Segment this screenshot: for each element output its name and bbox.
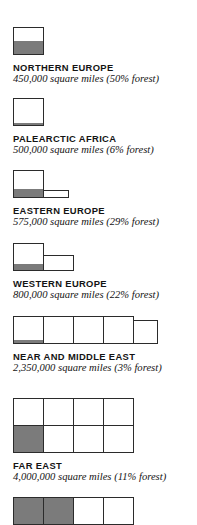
pictogram-cell bbox=[13, 27, 44, 55]
region-label: WESTERN EUROPE bbox=[13, 278, 197, 289]
forest-fill bbox=[14, 123, 43, 125]
forest-fill bbox=[14, 264, 43, 270]
pictogram-cell bbox=[13, 425, 44, 453]
forest-fill bbox=[14, 340, 43, 343]
region-label: FAR EAST bbox=[13, 460, 197, 471]
pictogram-cell bbox=[43, 316, 74, 344]
chart-entry-northern-europe: NORTHERN EUROPE 450,000 square miles (50… bbox=[13, 27, 197, 85]
forest-fill bbox=[14, 41, 43, 54]
region-stat: 2,350,000 square miles (3% forest) bbox=[13, 362, 197, 374]
pictogram-cell bbox=[13, 170, 44, 198]
pictogram-cell bbox=[103, 425, 134, 453]
pictogram-cell bbox=[73, 497, 104, 525]
pictogram-symbol bbox=[13, 170, 197, 200]
chart-entry-near-and-middle-east: NEAR AND MIDDLE EAST 2,350,000 square mi… bbox=[13, 316, 197, 374]
pictogram-cell-partial bbox=[43, 190, 69, 198]
pictogram-cell-partial bbox=[133, 320, 158, 344]
chart-entry-western-europe: WESTERN EUROPE 800,000 square miles (22%… bbox=[13, 243, 197, 301]
pictogram-symbol bbox=[13, 27, 197, 57]
pictogram-cell bbox=[13, 316, 44, 344]
pictogram-cell bbox=[13, 243, 44, 271]
entry-caption: NORTHERN EUROPE 450,000 square miles (50… bbox=[13, 62, 197, 85]
region-stat: 4,000,000 square miles (11% forest) bbox=[13, 471, 197, 483]
entry-caption: NEAR AND MIDDLE EAST 2,350,000 square mi… bbox=[13, 351, 197, 374]
pictogram-cell bbox=[73, 316, 104, 344]
chart-entry-far-east: FAR EAST 4,000,000 square miles (11% for… bbox=[13, 398, 197, 483]
pictogram-cell bbox=[43, 497, 74, 525]
pictogram-symbol bbox=[13, 497, 197, 525]
pictogram-cell bbox=[73, 425, 104, 453]
region-label: NEAR AND MIDDLE EAST bbox=[13, 351, 197, 362]
pictogram-cell bbox=[103, 398, 134, 426]
chart-entry-eastern-europe: EASTERN EUROPE 575,000 square miles (29%… bbox=[13, 170, 197, 228]
pictogram-cell-partial bbox=[43, 255, 74, 271]
pictogram-cell bbox=[103, 497, 134, 525]
chart-entry-palearctic-africa: PALEARCTIC AFRICA 500,000 square miles (… bbox=[13, 98, 197, 156]
region-label: EASTERN EUROPE bbox=[13, 205, 197, 216]
pictogram-cell bbox=[103, 316, 134, 344]
pictogram-cell bbox=[13, 497, 44, 525]
region-stat: 575,000 square miles (29% forest) bbox=[13, 216, 197, 228]
region-stat: 800,000 square miles (22% forest) bbox=[13, 289, 197, 301]
pictogram-cell bbox=[73, 398, 104, 426]
forest-fill bbox=[14, 426, 43, 452]
forest-fill bbox=[44, 498, 73, 524]
entry-caption: WESTERN EUROPE 800,000 square miles (22%… bbox=[13, 278, 197, 301]
pictogram-cell bbox=[43, 398, 74, 426]
entry-caption: FAR EAST 4,000,000 square miles (11% for… bbox=[13, 460, 197, 483]
entry-caption: EASTERN EUROPE 575,000 square miles (29%… bbox=[13, 205, 197, 228]
forest-fill bbox=[14, 498, 43, 524]
pictogram-symbol bbox=[13, 243, 197, 273]
forest-fill bbox=[14, 189, 43, 197]
region-label: PALEARCTIC AFRICA bbox=[13, 133, 197, 144]
pictogram-symbol bbox=[13, 398, 197, 456]
pictogram-cell bbox=[13, 398, 44, 426]
region-label: NORTHERN EUROPE bbox=[13, 62, 197, 73]
pictogram-symbol bbox=[13, 98, 197, 128]
chart-entry-partial-bottom bbox=[13, 497, 197, 525]
region-stat: 500,000 square miles (6% forest) bbox=[13, 144, 197, 156]
pictogram-cell bbox=[43, 425, 74, 453]
region-stat: 450,000 square miles (50% forest) bbox=[13, 73, 197, 85]
entry-caption: PALEARCTIC AFRICA 500,000 square miles (… bbox=[13, 133, 197, 156]
pictogram-cell bbox=[13, 98, 44, 126]
pictogram-symbol bbox=[13, 316, 197, 346]
